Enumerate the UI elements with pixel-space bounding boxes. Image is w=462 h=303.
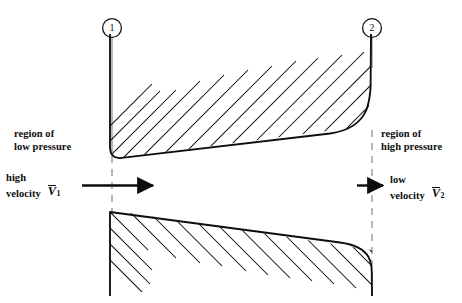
label-region-low-pressure-line1: region of — [14, 128, 71, 141]
label-region-low-pressure-line2: low pressure — [14, 141, 71, 154]
label-low-velocity: low velocity V2 — [390, 174, 445, 203]
velocity-symbol-2: V2 — [425, 187, 445, 203]
label-low-velocity-line2: velocity — [390, 190, 425, 203]
upper-wall-hatching — [104, 52, 404, 169]
label-region-high-pressure-line2: high pressure — [381, 141, 442, 154]
lower-wall-hatching — [104, 206, 388, 296]
velocity-symbol-1: V1 — [41, 185, 61, 201]
label-low-velocity-line2-row: velocity V2 — [390, 187, 445, 203]
station-number-2: 2 — [364, 20, 380, 36]
velocity-symbol-2-subscript: 2 — [440, 191, 444, 200]
upper-wall-contour — [110, 34, 371, 158]
velocity-symbol-1-subscript: 1 — [56, 189, 60, 198]
label-high-velocity: high velocity V1 — [6, 172, 61, 201]
label-region-high-pressure-line1: region of — [381, 128, 442, 141]
overbar-icon — [48, 185, 56, 186]
overbar-icon — [432, 187, 440, 188]
lower-wall — [104, 206, 388, 296]
label-region-high-pressure: region of high pressure — [381, 128, 442, 153]
upper-wall — [104, 34, 404, 169]
diffuser-figure: 1 2 region of low pressure region of hig… — [0, 0, 462, 303]
label-region-low-pressure: region of low pressure — [14, 128, 71, 153]
label-high-velocity-line2: velocity — [6, 188, 41, 201]
label-high-velocity-line2-row: velocity V1 — [6, 185, 61, 201]
station-number-1: 1 — [104, 20, 120, 36]
